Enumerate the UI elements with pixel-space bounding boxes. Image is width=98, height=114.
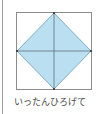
vertex-dot-right [90,50,92,52]
vertex-dot-left [16,50,18,52]
folded-square-diagram [0,0,98,96]
vertex-dot-top [53,12,55,14]
figure-caption: いったんひろげて [14,96,98,108]
vertex-dot-bottom [53,88,55,90]
